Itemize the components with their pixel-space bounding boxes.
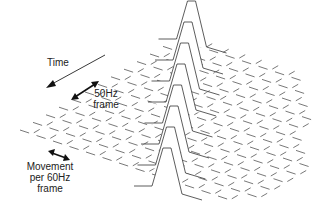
movement-line1: Movement bbox=[24, 161, 76, 172]
frame-50hz-line1: 50Hz bbox=[90, 88, 122, 99]
movement-label: Movement per 60Hz frame bbox=[24, 161, 76, 194]
peak-profile bbox=[134, 148, 202, 200]
movement-double-arrow-icon bbox=[48, 149, 70, 161]
movement-line2: per 60Hz bbox=[24, 172, 76, 183]
movement-line3: frame bbox=[24, 183, 76, 194]
frame-50hz-line2: frame bbox=[90, 99, 122, 110]
diagram-canvas: Time 50Hz frame Movement per 60Hz frame bbox=[0, 0, 314, 205]
time-label: Time bbox=[47, 57, 69, 68]
frame-50hz-label: 50Hz frame bbox=[90, 88, 122, 110]
